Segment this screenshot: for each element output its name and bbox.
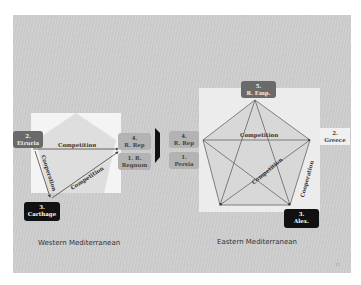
node-name: R. Rep (169, 140, 199, 147)
node-carthage: 3. Carthage (24, 202, 60, 221)
page-number: 11 (335, 262, 340, 267)
node-regnum: 1. R. Regnum (118, 153, 151, 170)
node-etruria: 2. Etruria (13, 131, 43, 148)
node-greece: 2. Greece (320, 128, 350, 145)
node-name: R. Rep (118, 142, 151, 149)
node-persia: 1. Persia (169, 152, 199, 169)
west-edge-top: Competition (58, 142, 96, 148)
node-west-rrep: 4. R. Rep (118, 133, 151, 150)
node-name: Alex. (284, 218, 319, 225)
east-title: Eastern Mediterranean (217, 238, 297, 246)
node-alex: 3. Alex. (284, 209, 319, 228)
node-remp: 5. R. Emp. (241, 81, 276, 98)
west-title: Western Mediterranean (38, 239, 120, 247)
node-name: Persia (169, 161, 199, 168)
east-edge-top: Competition (240, 132, 278, 138)
node-name: Regnum (118, 162, 151, 169)
node-name: Greece (320, 137, 350, 144)
node-name: Etruria (13, 140, 43, 147)
node-name: R. Emp. (241, 90, 276, 97)
transition-arrow (155, 128, 160, 163)
node-east-rrep: 4. R. Rep (169, 131, 199, 148)
node-name: Carthage (24, 211, 60, 218)
